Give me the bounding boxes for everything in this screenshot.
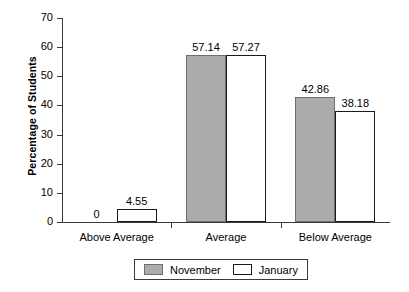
legend-label-january: January — [259, 264, 298, 276]
x-axis-tick — [171, 223, 172, 228]
x-axis-label-3: Below Average — [275, 231, 395, 243]
bar-january-3[interactable] — [335, 111, 375, 222]
x-axis-label-2: Average — [166, 231, 286, 243]
bar-november-3[interactable] — [295, 97, 335, 222]
bar-value-label-november-1: 0 — [75, 208, 119, 220]
legend-item-november[interactable]: November — [144, 264, 221, 276]
bar-value-label-november-2: 57.14 — [184, 41, 228, 53]
y-axis-tick-label: 20 — [41, 157, 53, 169]
y-axis-title: Percentage of Students — [26, 36, 38, 196]
bar-value-label-january-1: 4.55 — [115, 195, 159, 207]
x-axis-line — [62, 222, 390, 223]
y-axis-tick-label: 10 — [41, 186, 53, 198]
bar-value-label-november-3: 42.86 — [293, 83, 337, 95]
legend-swatch-november — [144, 264, 163, 275]
y-axis-tick-label: 0 — [47, 215, 53, 227]
y-axis-tick: 0 — [57, 222, 62, 223]
bar-chart-figure: Percentage of Students 010203040506070 0… — [0, 0, 409, 292]
legend-label-november: November — [170, 264, 221, 276]
y-axis-tick-label: 40 — [41, 98, 53, 110]
x-axis-label-1: Above Average — [57, 231, 177, 243]
legend-swatch-january — [233, 264, 252, 275]
legend-item-january[interactable]: January — [233, 264, 298, 276]
x-axis-tick — [281, 223, 282, 228]
bar-january-2[interactable] — [226, 55, 266, 222]
bar-november-2[interactable] — [186, 55, 226, 222]
y-axis-tick-label: 70 — [41, 11, 53, 23]
bar-value-label-january-2: 57.27 — [224, 41, 268, 53]
y-axis-tick-label: 60 — [41, 40, 53, 52]
bar-january-1[interactable] — [117, 209, 157, 222]
bar-value-label-january-3: 38.18 — [333, 97, 377, 109]
chart-legend: November January — [134, 259, 308, 280]
plot-area: 04.5557.1457.2742.8638.18 — [62, 18, 390, 222]
y-axis-tick-label: 30 — [41, 128, 53, 140]
y-axis-tick-label: 50 — [41, 69, 53, 81]
